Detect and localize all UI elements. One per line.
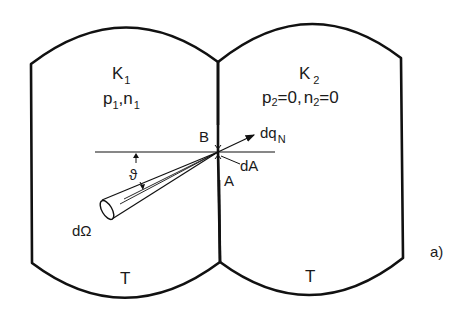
dA-leader: [221, 156, 240, 164]
angle-arrowhead-top: [133, 153, 139, 158]
effusion-diagram: K1 p1,n1 T K2 p2=0,n2=0 T B A dA dqN ϑ d…: [0, 0, 470, 314]
label-flux: dqN: [260, 124, 286, 145]
chamber-left-name: K1: [112, 64, 130, 86]
panel-label: a): [430, 243, 443, 260]
chamber-right-temperature: T: [305, 267, 315, 286]
wall-lower: [219, 180, 220, 262]
solid-angle-cone: [97, 152, 218, 222]
chamber-left-state: p1,n1: [103, 89, 140, 111]
chamber-left-temperature: T: [120, 269, 130, 288]
label-point-a: A: [224, 172, 234, 189]
label-area-element: dA: [240, 157, 258, 174]
label-point-b: B: [199, 128, 209, 145]
label-solid-angle: dΩ: [72, 222, 92, 239]
flux-arrow: [218, 135, 254, 152]
chamber-right-state: p2=0,n2=0: [262, 88, 339, 108]
chamber-right-name: K2: [299, 64, 319, 86]
label-angle-theta: ϑ: [129, 166, 138, 183]
